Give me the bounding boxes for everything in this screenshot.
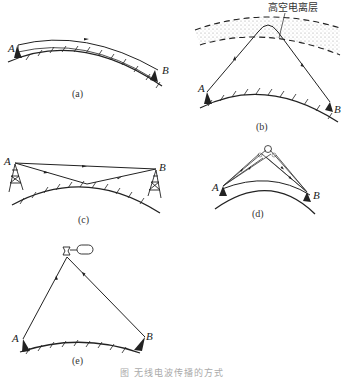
antenna-a-icon	[22, 339, 30, 352]
tower-a-icon	[9, 164, 23, 192]
arrow-icon	[84, 38, 89, 41]
figure-caption: 图 无线电波传播的方式	[0, 366, 344, 378]
antenna-b-icon	[134, 337, 145, 351]
antenna-b-icon	[325, 102, 333, 112]
station-a-label: A	[7, 42, 15, 54]
earth-surface	[215, 191, 315, 214]
station-a-label: A	[11, 332, 19, 344]
panel-b-caption: (b)	[256, 121, 268, 133]
earth-surface	[8, 50, 162, 86]
earth-surface	[200, 94, 338, 122]
station-b-label: B	[159, 161, 166, 173]
earth-surface	[12, 187, 160, 213]
antenna-b-icon	[303, 192, 311, 202]
panel-c-caption: (c)	[78, 214, 89, 226]
scatter-rays	[223, 150, 307, 192]
earth-surface	[20, 342, 140, 353]
radio-propagation-diagram: A B (a) 高空电离层 A B (b)	[0, 0, 344, 378]
antenna-b-icon	[150, 70, 158, 82]
panel-d: A B (d)	[211, 146, 320, 221]
panel-c: A B (c)	[3, 155, 166, 226]
panel-d-caption: (d)	[252, 208, 264, 220]
panel-b: 高空电离层 A B (b)	[195, 1, 341, 133]
station-a-label: A	[197, 82, 205, 94]
panel-a: A B (a)	[7, 38, 169, 100]
station-b-label: B	[334, 103, 341, 115]
ionosphere-label: 高空电离层	[268, 1, 318, 13]
station-b-label: B	[162, 64, 169, 76]
scatter-volume-icon	[265, 146, 272, 153]
satellite-icon	[63, 245, 93, 255]
station-b-label: B	[313, 189, 320, 201]
station-a-label: A	[211, 181, 219, 193]
panel-a-caption: (a)	[72, 88, 83, 100]
tower-b-icon	[148, 170, 161, 198]
antenna-a-icon	[204, 92, 212, 104]
panel-e: A B (e)	[11, 245, 153, 367]
station-b-label: B	[146, 330, 153, 342]
satellite-link	[23, 257, 145, 339]
station-a-label: A	[3, 155, 11, 167]
